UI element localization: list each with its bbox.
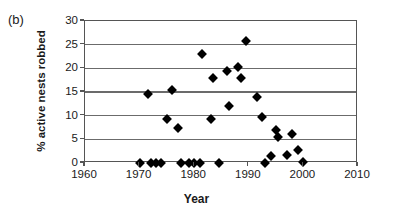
x-tick-label: 1980	[180, 168, 206, 180]
x-tick-label: 1970	[126, 168, 152, 180]
y-tick-mark	[80, 138, 84, 139]
y-tick-mark	[80, 43, 84, 44]
data-point	[293, 145, 303, 155]
plot-area	[84, 20, 357, 162]
gridline	[85, 44, 356, 45]
data-point	[135, 158, 145, 168]
data-point	[214, 158, 224, 168]
x-tick-label: 2010	[344, 168, 370, 180]
y-tick-mark	[80, 67, 84, 68]
data-point	[288, 129, 298, 139]
data-point	[156, 158, 166, 168]
y-tick-label: 0	[50, 156, 78, 168]
y-axis-tick-labels: 051015202530	[50, 0, 78, 217]
y-tick-label: 25	[50, 38, 78, 50]
gridline	[85, 68, 356, 69]
y-tick-label: 20	[50, 61, 78, 73]
data-point	[257, 112, 267, 122]
x-tick-mark	[83, 162, 84, 166]
plot-inner	[85, 21, 356, 161]
data-point	[233, 62, 243, 72]
x-tick-label: 1990	[235, 168, 261, 180]
x-tick-mark	[356, 162, 357, 166]
gridline	[85, 139, 356, 140]
y-tick-label: 15	[50, 85, 78, 97]
y-axis-label-container: % active nests robbed	[32, 18, 50, 164]
data-point	[208, 73, 218, 83]
y-tick-label: 5	[50, 132, 78, 144]
figure-container: (b) % active nests robbed 051015202530 Y…	[0, 0, 393, 217]
y-tick-label: 10	[50, 109, 78, 121]
x-axis-label: Year	[0, 192, 393, 206]
y-tick-mark	[80, 19, 84, 20]
data-point	[173, 123, 183, 133]
x-tick-mark	[138, 162, 139, 166]
x-tick-mark	[193, 162, 194, 166]
x-tick-label: 2000	[290, 168, 316, 180]
data-point	[298, 157, 308, 167]
data-point	[282, 150, 292, 160]
data-point	[236, 73, 246, 83]
x-tick-mark	[247, 162, 248, 166]
data-point	[167, 85, 177, 95]
y-axis-label: % active nests robbed	[35, 30, 47, 151]
data-point	[224, 101, 234, 111]
gridline	[85, 91, 356, 92]
x-tick-label: 1960	[71, 168, 97, 180]
y-tick-mark	[80, 114, 84, 115]
gridline	[85, 115, 356, 116]
x-tick-mark	[302, 162, 303, 166]
data-point	[273, 132, 283, 142]
panel-label: (b)	[8, 12, 24, 27]
y-tick-mark	[80, 90, 84, 91]
data-point	[252, 92, 262, 102]
data-point	[197, 49, 207, 59]
y-tick-label: 30	[50, 14, 78, 26]
